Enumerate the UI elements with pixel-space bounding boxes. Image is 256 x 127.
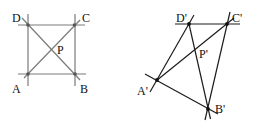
point-c: [73, 23, 77, 27]
label-a: A: [12, 82, 21, 96]
left-figure-square: D C A B P: [12, 11, 90, 96]
diagonal-d-b-prime: [189, 24, 211, 119]
point-b-prime: [206, 107, 210, 111]
right-figure-quadrilateral: D' C' A' B' P': [137, 11, 242, 120]
label-c: C: [82, 11, 90, 25]
label-d-prime: D': [176, 11, 187, 25]
label-a-prime: A': [137, 84, 148, 98]
point-d-prime: [187, 22, 191, 26]
point-c-prime: [225, 22, 229, 26]
label-b-prime: B': [215, 102, 225, 116]
label-p: P: [57, 43, 64, 57]
point-a: [26, 72, 30, 76]
label-c-prime: C': [232, 11, 242, 25]
label-d: D: [12, 11, 21, 25]
label-p-prime: P': [199, 47, 208, 61]
label-b: B: [80, 82, 88, 96]
diagram-canvas: D C A B P D' C' A' B' P': [0, 0, 256, 127]
point-b: [73, 72, 77, 76]
point-a-prime: [155, 78, 159, 82]
point-d: [26, 23, 30, 27]
